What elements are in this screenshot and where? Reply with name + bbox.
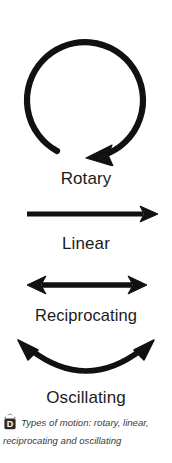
types-of-motion-figure: Rotary Linear Reciprocating Oscillating	[0, 0, 172, 463]
figure-caption: D Types of motion: rotary, linear, recip…	[0, 412, 172, 448]
motion-block-linear: Linear	[0, 200, 172, 254]
motion-label-rotary: Rotary	[0, 169, 172, 189]
motion-block-rotary: Rotary	[0, 18, 172, 189]
single-arrow-right-icon	[0, 200, 172, 228]
caption-text: Types of motion: rotary, linear, recipro…	[3, 417, 149, 446]
motion-label-oscillating: Oscillating	[0, 388, 172, 408]
motion-label-linear: Linear	[0, 234, 172, 254]
curved-double-arrow-icon	[0, 338, 172, 384]
motion-label-reciprocating: Reciprocating	[0, 305, 172, 325]
motion-block-oscillating: Oscillating	[0, 338, 172, 408]
design-technology-badge: D	[3, 413, 17, 430]
badge-letter: D	[7, 419, 14, 429]
double-headed-arrow-icon	[0, 270, 172, 300]
circular-arrow-icon	[0, 18, 172, 166]
motion-block-reciprocating: Reciprocating	[0, 270, 172, 325]
